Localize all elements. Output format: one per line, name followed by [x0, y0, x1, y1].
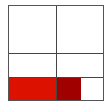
dark-red-segment	[57, 78, 81, 100]
bright-red-segment	[9, 78, 56, 100]
grid-frame	[8, 5, 104, 101]
horizontal-divider-upper	[9, 53, 103, 54]
